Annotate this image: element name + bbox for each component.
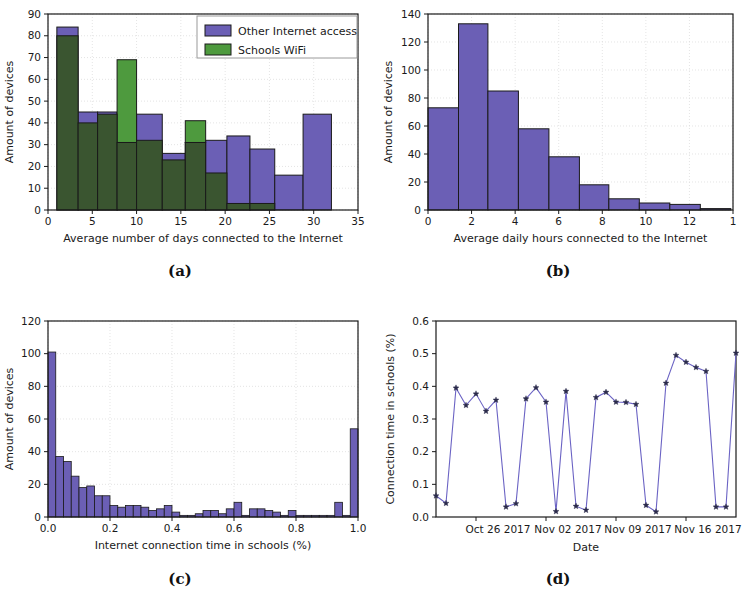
x-axis-label: Internet connection time in schools (%) xyxy=(95,539,312,552)
bar xyxy=(459,24,488,210)
data-point xyxy=(693,364,699,370)
tick-label: 0 xyxy=(34,204,41,216)
bar xyxy=(141,507,149,517)
bar xyxy=(288,510,296,517)
tick-label: 70 xyxy=(28,51,41,63)
bar xyxy=(118,507,126,517)
bar xyxy=(275,175,303,210)
caption-b: (b) xyxy=(528,262,588,280)
bars xyxy=(48,352,358,517)
bar xyxy=(227,203,250,210)
date-tick-label: Nov 02 2017 xyxy=(534,523,601,535)
panel-b-plot: 0246810121020406080100120140Average dail… xyxy=(378,0,745,250)
bar xyxy=(226,509,234,517)
bar xyxy=(149,510,157,517)
panel-d-plot: 0.00.10.20.30.40.50.6Oct 26 2017Nov 02 2… xyxy=(378,305,745,560)
bar xyxy=(172,512,180,517)
y-axis-label: Connection time in schools (%) xyxy=(384,333,397,504)
date-tick-label: Oct 26 2017 xyxy=(466,523,531,535)
tick-label: 0.4 xyxy=(412,380,429,392)
data-point xyxy=(713,504,719,510)
bar xyxy=(234,502,242,517)
bar xyxy=(117,60,136,143)
tick-label: 0.6 xyxy=(412,315,429,327)
bar xyxy=(549,157,580,210)
data-point xyxy=(723,504,729,510)
x-axis-label: Average number of days connected to the … xyxy=(63,232,343,245)
bar xyxy=(609,199,640,210)
bar xyxy=(98,114,117,210)
tick-label: 40 xyxy=(28,445,41,457)
data-point xyxy=(623,399,629,405)
bar xyxy=(102,496,110,517)
tick-label: 0 xyxy=(34,511,41,523)
bar xyxy=(79,488,87,517)
bar xyxy=(579,185,608,210)
bar xyxy=(227,136,250,210)
tick-label: 0.8 xyxy=(288,522,305,534)
tick-label: 60 xyxy=(28,413,41,425)
legend-swatch xyxy=(205,44,231,55)
tick-label: 0.6 xyxy=(226,522,243,534)
tick-label: 15 xyxy=(174,215,187,227)
figure-multipanel: 051015202530350102030405060708090Average… xyxy=(0,0,745,603)
x-axis-label: Average daily hours connected to the Int… xyxy=(454,232,708,245)
tick-label: 0.0 xyxy=(412,511,429,523)
data-point xyxy=(513,501,519,507)
tick-label: 35 xyxy=(351,215,364,227)
tick-label: 30 xyxy=(28,138,41,150)
tick-label: 5 xyxy=(89,215,96,227)
data-point xyxy=(583,507,589,513)
tick-label: 0.4 xyxy=(164,522,181,534)
legend: Other Internet accessSchools WiFi xyxy=(197,16,357,58)
data-point xyxy=(653,509,659,515)
bar xyxy=(273,512,281,517)
date-tick-label: Nov 09 2017 xyxy=(604,523,671,535)
bar xyxy=(56,457,64,517)
bar xyxy=(257,509,265,517)
caption-a: (a) xyxy=(150,262,210,280)
tick-label: 4 xyxy=(512,215,519,227)
panel-d: 0.00.10.20.30.40.50.6Oct 26 2017Nov 02 2… xyxy=(378,305,745,560)
panel-c-plot: 0.00.20.40.60.81.0020406080100120Interne… xyxy=(0,305,372,560)
tick-label: 12 xyxy=(683,215,696,227)
legend-swatch xyxy=(205,25,231,36)
tick-label: 2 xyxy=(468,215,475,227)
caption-c: (c) xyxy=(150,570,210,588)
tick-label: 20 xyxy=(28,478,41,490)
bar xyxy=(518,129,549,210)
tick-label: 60 xyxy=(408,120,421,132)
bar xyxy=(95,496,103,517)
bar xyxy=(250,149,275,210)
tick-label: 20 xyxy=(408,176,421,188)
tick-label: 80 xyxy=(408,92,421,104)
tick-label: 50 xyxy=(28,95,41,107)
bar xyxy=(203,510,211,517)
bar xyxy=(206,173,227,210)
tick-label: 120 xyxy=(21,315,41,327)
bar xyxy=(639,203,670,210)
panel-c: 0.00.20.40.60.81.0020406080100120Interne… xyxy=(0,305,372,560)
bars xyxy=(428,24,731,210)
tick-label: 30 xyxy=(307,215,320,227)
tick-label: 80 xyxy=(28,380,41,392)
tick-label: 25 xyxy=(263,215,276,227)
bar xyxy=(48,352,56,517)
bar xyxy=(185,142,205,210)
bar xyxy=(71,476,79,517)
bar xyxy=(133,506,141,517)
bar xyxy=(428,108,459,210)
tick-label: 0.2 xyxy=(412,445,429,457)
tick-label: 0.3 xyxy=(412,413,429,425)
tick-label: 1 xyxy=(730,215,737,227)
tick-label: 100 xyxy=(401,64,421,76)
bar xyxy=(57,36,78,210)
panel-a-plot: 051015202530350102030405060708090Average… xyxy=(0,0,372,250)
data-point xyxy=(573,503,579,509)
data-point xyxy=(443,500,449,506)
tick-label: 40 xyxy=(28,116,41,128)
bar xyxy=(164,506,172,517)
bar xyxy=(110,506,118,517)
tick-label: 60 xyxy=(28,73,41,85)
panel-a: 051015202530350102030405060708090Average… xyxy=(0,0,372,250)
